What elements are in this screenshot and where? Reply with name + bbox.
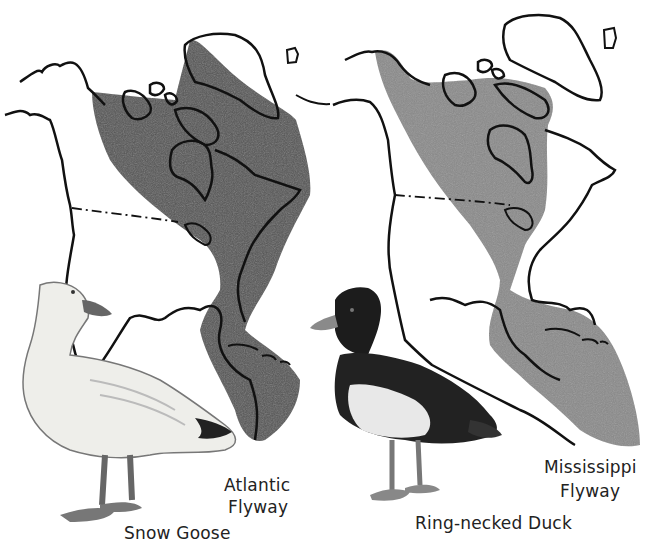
atlantic-flyway-label-line1: Atlantic bbox=[224, 474, 290, 496]
duck-eye bbox=[350, 308, 354, 312]
europe-coast bbox=[296, 95, 330, 104]
duck-feet bbox=[370, 485, 440, 501]
mississippi-flyway-label-line2: Flyway bbox=[560, 480, 620, 502]
mississippi-flyway-label-line1: Mississippi bbox=[544, 456, 637, 478]
iceland-outline bbox=[287, 48, 298, 63]
ring-necked-duck-label: Ring-necked Duck bbox=[415, 512, 572, 534]
duck-bill bbox=[310, 315, 338, 330]
ring-necked-duck-illustration bbox=[310, 287, 502, 501]
flyway-illustration: Atlantic Flyway Snow Goose Mississippi F… bbox=[0, 0, 666, 557]
snow-goose-legs bbox=[102, 455, 132, 505]
snow-goose-eye bbox=[71, 290, 75, 294]
duck-head bbox=[335, 287, 381, 355]
snow-goose-feet bbox=[60, 502, 142, 522]
iceland-outline-right bbox=[604, 28, 616, 48]
duck-legs bbox=[392, 440, 420, 490]
snow-goose-label: Snow Goose bbox=[124, 522, 231, 544]
atlantic-flyway-label-line2: Flyway bbox=[228, 496, 288, 518]
